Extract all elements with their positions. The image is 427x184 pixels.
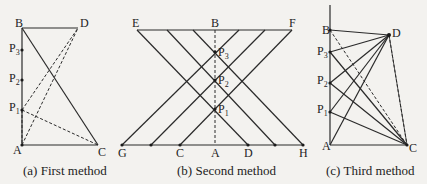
panel-second-method: E B F P3 P2 P1 G C A D H (b) Second meth… bbox=[118, 16, 308, 178]
label-C: C bbox=[409, 141, 417, 155]
label-P1: P1 bbox=[9, 100, 20, 116]
label-P1: P1 bbox=[218, 102, 229, 118]
label-P2: P2 bbox=[317, 73, 328, 89]
label-E: E bbox=[132, 16, 139, 30]
label-D: D bbox=[80, 16, 89, 30]
label-A: A bbox=[322, 139, 331, 153]
label-P1: P1 bbox=[317, 102, 328, 118]
label-G: G bbox=[118, 146, 127, 160]
label-B: B bbox=[322, 23, 330, 37]
label-P3: P3 bbox=[218, 45, 229, 61]
label-A: A bbox=[13, 143, 22, 157]
point-P2 bbox=[328, 81, 331, 84]
label-C: C bbox=[176, 146, 184, 160]
line-P1C bbox=[330, 112, 407, 145]
label-C: C bbox=[98, 145, 106, 159]
dashed-BC bbox=[330, 30, 407, 145]
point-P3 bbox=[213, 50, 216, 53]
label-P2: P2 bbox=[9, 71, 20, 87]
line-CF bbox=[180, 30, 292, 145]
label-P3: P3 bbox=[9, 41, 20, 57]
point-P1 bbox=[328, 110, 331, 113]
line-BD bbox=[330, 30, 389, 35]
line-P2D bbox=[330, 35, 389, 83]
point-P3 bbox=[328, 50, 331, 53]
dashed-AD bbox=[22, 28, 78, 145]
point-P2 bbox=[20, 78, 23, 81]
label-P2: P2 bbox=[218, 73, 229, 89]
line-P2C bbox=[330, 83, 407, 145]
point-bottom-mid-left bbox=[149, 143, 152, 146]
point-bottom-mid-right bbox=[273, 143, 276, 146]
line-P3C bbox=[330, 52, 407, 145]
caption-third-method: (c) Third method bbox=[326, 163, 415, 178]
caption-second-method: (b) Second method bbox=[177, 163, 276, 178]
label-D: D bbox=[244, 146, 253, 160]
point-P2 bbox=[213, 78, 216, 81]
caption-first-method: (a) First method bbox=[23, 163, 107, 178]
point-P1 bbox=[20, 108, 23, 111]
label-P3: P3 bbox=[317, 44, 328, 60]
line-ED bbox=[137, 30, 248, 145]
label-B: B bbox=[15, 16, 23, 30]
point-P3 bbox=[20, 48, 23, 51]
label-F: F bbox=[289, 16, 296, 30]
diagram-canvas: B D P3 P2 P1 A C (a) First method E B F … bbox=[0, 0, 427, 184]
panel-first-method: B D P3 P2 P1 A C (a) First method bbox=[9, 16, 107, 178]
label-B: B bbox=[211, 16, 219, 30]
label-H: H bbox=[299, 146, 308, 160]
label-A: A bbox=[211, 146, 220, 160]
point-D bbox=[387, 33, 391, 37]
label-D: D bbox=[392, 26, 401, 40]
panel-third-method: B D P3 P2 P1 A C (c) Third method bbox=[317, 5, 417, 178]
point-P1 bbox=[213, 107, 216, 110]
